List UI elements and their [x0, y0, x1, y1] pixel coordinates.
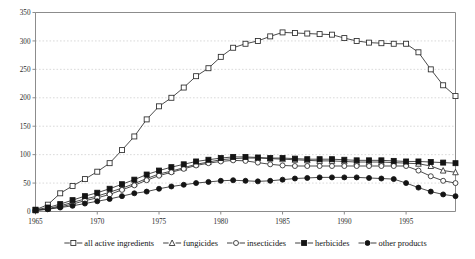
x-tick-label-1990: 1990	[337, 218, 352, 226]
data-point-0-11	[169, 95, 174, 100]
data-point-4-22	[305, 175, 310, 180]
data-point-2-23	[317, 164, 322, 169]
data-point-4-27	[367, 175, 372, 180]
legend-item-other-products[interactable]: other products	[359, 239, 427, 248]
data-point-4-12	[181, 182, 186, 187]
data-point-0-28	[379, 41, 384, 46]
data-point-0-5	[95, 169, 100, 174]
data-point-4-25	[342, 175, 347, 180]
data-point-3-8	[132, 177, 137, 182]
data-point-0-15	[218, 54, 223, 59]
data-point-3-5	[95, 190, 100, 195]
legend-item-herbicides[interactable]: herbicides	[295, 239, 349, 248]
data-point-2-32	[428, 174, 433, 179]
data-point-4-5	[95, 199, 100, 204]
chart-legend: all active ingredientsfungicidesinsectic…	[64, 239, 426, 248]
data-point-2-28	[379, 164, 384, 169]
data-point-2-10	[157, 173, 162, 178]
legend-label-0: all active ingredients	[84, 239, 154, 248]
data-point-3-14	[206, 157, 211, 162]
data-point-0-2	[58, 191, 63, 196]
data-point-4-33	[441, 192, 446, 197]
data-point-2-24	[329, 164, 334, 169]
y-tick-label-50: 50	[23, 180, 31, 188]
data-point-0-32	[428, 67, 433, 72]
data-point-2-7	[119, 187, 124, 192]
data-point-4-15	[218, 178, 223, 183]
data-point-3-31	[416, 159, 421, 164]
data-point-4-20	[280, 177, 285, 182]
data-point-0-30	[404, 41, 409, 46]
legend-marker-open-triangle	[169, 240, 175, 246]
data-point-4-23	[317, 175, 322, 180]
data-point-3-26	[354, 158, 359, 163]
legend-item-fungicides[interactable]: fungicides	[163, 239, 218, 248]
data-point-0-25	[342, 36, 347, 41]
chart-canvas: 050100150200250300350 196519701975198019…	[0, 0, 475, 259]
data-point-3-20	[280, 156, 285, 161]
data-point-0-18	[255, 38, 260, 43]
data-point-4-29	[391, 177, 396, 182]
data-point-2-18	[255, 160, 260, 165]
data-point-2-31	[416, 168, 421, 173]
data-point-4-10	[157, 186, 162, 191]
data-point-4-21	[292, 176, 297, 181]
y-tick-label-100: 100	[20, 151, 31, 159]
y-tick-label-0: 0	[27, 208, 31, 216]
y-tick-label-200: 200	[20, 94, 31, 102]
legend-marker-open-circle	[234, 241, 239, 246]
data-point-0-33	[441, 83, 446, 88]
data-point-0-19	[268, 34, 273, 39]
y-tick-labels: 050100150200250300350	[20, 9, 31, 216]
data-point-3-9	[144, 172, 149, 177]
y-tick-label-250: 250	[20, 66, 31, 74]
data-point-2-29	[391, 164, 396, 169]
data-point-3-15	[218, 156, 223, 161]
data-point-3-7	[119, 182, 124, 187]
y-tick-label-150: 150	[20, 123, 31, 131]
data-point-4-26	[354, 175, 359, 180]
data-point-3-12	[181, 162, 186, 167]
data-point-4-17	[243, 178, 248, 183]
data-point-4-2	[58, 205, 63, 210]
data-point-0-21	[292, 30, 297, 35]
data-point-3-11	[169, 165, 174, 170]
data-point-3-16	[231, 154, 236, 159]
x-tick-labels: 1965197019751980198519901995	[28, 218, 413, 226]
legend-marker-filled-square	[302, 241, 307, 246]
data-point-0-14	[206, 66, 211, 71]
data-point-4-24	[329, 175, 334, 180]
data-point-4-6	[107, 196, 112, 201]
data-point-0-17	[243, 41, 248, 46]
data-point-0-24	[329, 32, 334, 37]
legend-item-insecticides[interactable]: insecticides	[227, 239, 286, 248]
data-point-0-16	[231, 45, 236, 50]
x-tick-label-1965: 1965	[28, 218, 43, 226]
data-point-2-20	[280, 163, 285, 168]
x-tick-label-1975: 1975	[152, 218, 167, 226]
x-tick-label-1995: 1995	[399, 218, 414, 226]
data-point-4-34	[453, 194, 458, 199]
data-point-2-27	[367, 164, 372, 169]
legend-marker-filled-circle	[365, 241, 370, 246]
legend-label-1: fungicides	[183, 239, 218, 248]
legend-item-all-active-ingredients[interactable]: all active ingredients	[64, 239, 154, 248]
data-point-2-8	[132, 183, 137, 188]
data-point-0-13	[194, 74, 199, 79]
data-point-1-33	[440, 168, 446, 174]
data-point-0-6	[107, 161, 112, 166]
pesticide-usage-line-chart: 050100150200250300350 196519701975198019…	[0, 0, 475, 259]
data-point-0-7	[119, 148, 124, 153]
data-point-3-25	[342, 157, 347, 162]
data-point-0-22	[305, 31, 310, 36]
data-point-4-19	[268, 178, 273, 183]
legend-label-4: other products	[379, 239, 427, 248]
data-point-0-26	[354, 38, 359, 43]
data-point-3-13	[194, 159, 199, 164]
data-point-4-13	[194, 181, 199, 186]
legend-label-3: herbicides	[315, 239, 349, 248]
data-point-0-29	[391, 41, 396, 46]
data-point-3-4	[82, 194, 87, 199]
data-point-0-20	[280, 30, 285, 35]
data-point-4-8	[132, 191, 137, 196]
